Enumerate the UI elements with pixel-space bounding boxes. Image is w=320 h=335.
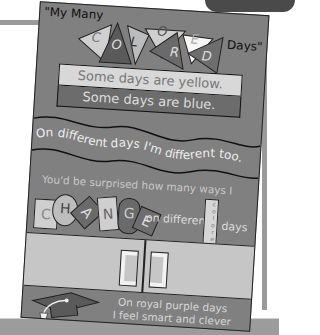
flag-letter: O <box>157 24 168 40</box>
panel-divider <box>141 240 146 292</box>
left-bracket-icon <box>120 251 138 286</box>
wave-line-text: On different days I'm different too. <box>33 124 245 166</box>
flag-letter: E <box>190 32 199 47</box>
flag-letter: O <box>111 37 122 53</box>
corner-tab <box>205 0 295 12</box>
flag-letter: R <box>170 44 180 60</box>
svg-text:On different days I'm differen: On different days I'm different too. <box>33 124 245 166</box>
days-word: days <box>221 220 248 235</box>
title-suffix: Days" <box>227 38 263 54</box>
graduation-cap-icon <box>29 286 101 324</box>
right-bracket-icon <box>150 253 168 288</box>
colored-vertical-label: colored <box>202 199 219 246</box>
flag-letter: C <box>91 30 101 46</box>
change-letter: N <box>97 196 120 231</box>
wavy-banner: On different days I'm different too. <box>31 114 262 182</box>
flag-letter: L <box>130 34 138 49</box>
colored-days-poster: "My Many Days" C O L O R E D Some days a… <box>21 1 270 331</box>
flag-letter: D <box>201 48 212 64</box>
